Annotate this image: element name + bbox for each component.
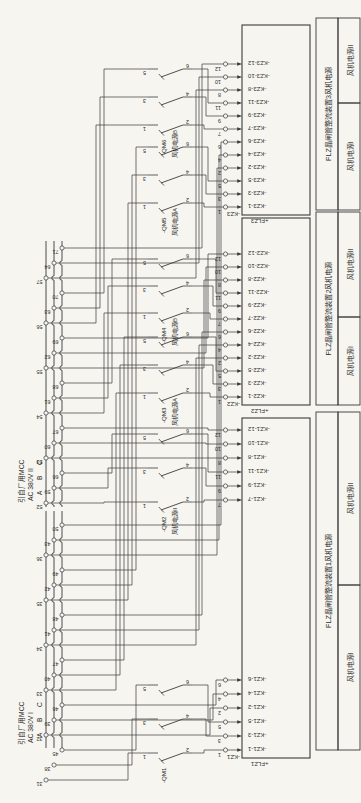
terminal-label: -KZ3-7 (247, 125, 266, 131)
tap-number: 55 (36, 369, 42, 375)
contact-number: 1 (143, 754, 146, 760)
terminal-label: -KZ3-10 (247, 73, 269, 79)
tap-number: 42 (44, 586, 50, 592)
connector-label: -KZ1 (226, 754, 240, 760)
contact-number: 1 (143, 394, 146, 400)
wire (56, 155, 223, 540)
pin-arrow-icon (237, 456, 242, 460)
tap-circle (44, 553, 48, 557)
tap-circle (44, 598, 48, 602)
pin-circle (223, 330, 227, 334)
pin-number: 1 (218, 752, 221, 758)
pin-circle (223, 114, 227, 118)
terminal-label: -KZ3-5 (247, 177, 266, 183)
connector-label: -KZ3 (226, 211, 240, 217)
contact-number: 6 (186, 63, 189, 69)
contact-number: 6 (186, 679, 189, 685)
switch-blade-tick (159, 208, 164, 214)
tap-circle (60, 246, 64, 250)
tap-number: 48 (52, 616, 58, 622)
tap-circle (44, 366, 48, 370)
pin-arrow-icon (237, 62, 242, 66)
terminal-label: -KZ1-3 (247, 732, 266, 738)
pin-arrow-icon (237, 291, 242, 295)
contact-number: 6 (186, 141, 189, 147)
pin-circle (223, 720, 227, 724)
wire (64, 434, 148, 473)
fan-power-label: 风机电源B (171, 318, 179, 346)
box-label: +FLZ1 (250, 761, 268, 767)
switch-blade (161, 97, 183, 105)
device-title: FLZ晶闸管整流装置1风机电源 (324, 534, 333, 628)
tap-number: 43 (44, 541, 50, 547)
pin-arrow-icon (237, 179, 242, 183)
switch-blade-tick (159, 758, 164, 764)
tap-circle (44, 456, 48, 460)
pin-arrow-icon (237, 114, 242, 118)
pin-circle (223, 706, 227, 710)
pin-number: 5 (218, 183, 221, 189)
phase-letter: B (36, 718, 43, 722)
switch-label: -QM6 (160, 139, 167, 155)
pin-arrow-icon (237, 470, 242, 474)
wire (64, 428, 223, 430)
terminal-label: -KZ1-10 (247, 440, 269, 446)
tap-circle (60, 523, 64, 527)
tap-number: 38 (44, 766, 50, 772)
pin-circle (223, 442, 227, 446)
tap-number: 70 (52, 294, 58, 300)
pin-circle (223, 140, 227, 144)
tap-circle (52, 673, 56, 677)
pin-circle (223, 88, 227, 92)
terminal-label: -KZ2-12 (247, 250, 269, 256)
contact-number: 4 (186, 91, 189, 97)
pin-arrow-icon (237, 734, 242, 738)
tap-circle (52, 441, 56, 445)
terminal-label: -KZ1-1 (247, 746, 266, 752)
section-label: 风机电源I (346, 346, 355, 376)
pin-arrow-icon (237, 395, 242, 399)
contact-number: 2 (186, 119, 189, 125)
section-label: 风机电源II (346, 249, 355, 281)
wire (64, 142, 223, 525)
contact-number: 5 (143, 435, 146, 441)
terminal-label: -KZ2-9 (247, 302, 266, 308)
wire (192, 125, 223, 129)
tap-number: 71 (52, 249, 58, 255)
tap-number: 59 (44, 489, 50, 495)
pin-arrow-icon (237, 166, 242, 170)
terminal-label: -KZ3-12 (247, 60, 269, 66)
device-title: FLZ晶闸管整流装置3风机电源 (324, 67, 333, 161)
contact-number: 6 (186, 428, 189, 434)
tap-number: 39 (44, 721, 50, 727)
tap-circle (44, 411, 48, 415)
pin-circle (223, 179, 227, 183)
contact-number: 4 (186, 169, 189, 175)
section-label: 风机电源II (346, 45, 355, 77)
contact-number: 2 (186, 307, 189, 313)
switch-label: -QM3 (160, 407, 167, 423)
pin-circle (223, 692, 227, 696)
tap-number: 47 (52, 661, 58, 667)
pin-number: 12 (215, 66, 221, 72)
tap-circle (60, 613, 64, 617)
pin-arrow-icon (237, 692, 242, 696)
pin-circle (223, 484, 227, 488)
switch-blade-tick (159, 370, 164, 376)
switch-blade-tick (159, 724, 164, 730)
fan-power-label: 风机电源B (171, 130, 179, 158)
bus-line (60, 241, 62, 507)
wire (56, 175, 148, 585)
terminal-label: -KZ1-2 (247, 704, 266, 710)
pin-arrow-icon (237, 428, 242, 432)
wire (56, 694, 223, 720)
tap-circle (60, 336, 64, 340)
pin-number: 10 (215, 446, 221, 452)
tap-circle (52, 351, 56, 355)
tap-circle (52, 763, 56, 767)
pin-circle (223, 317, 227, 321)
pin-arrow-icon (237, 192, 242, 196)
tap-number: 41 (44, 631, 50, 637)
tap-number: 34 (36, 646, 42, 652)
pin-number: 8 (218, 92, 221, 98)
